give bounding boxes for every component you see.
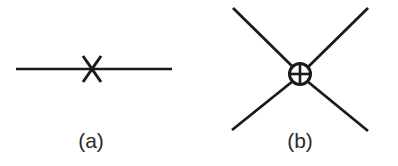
panel-label-a: (a) — [51, 130, 131, 151]
figure-container: (a) (b) — [0, 0, 398, 166]
panel-label-b: (b) — [260, 130, 340, 151]
